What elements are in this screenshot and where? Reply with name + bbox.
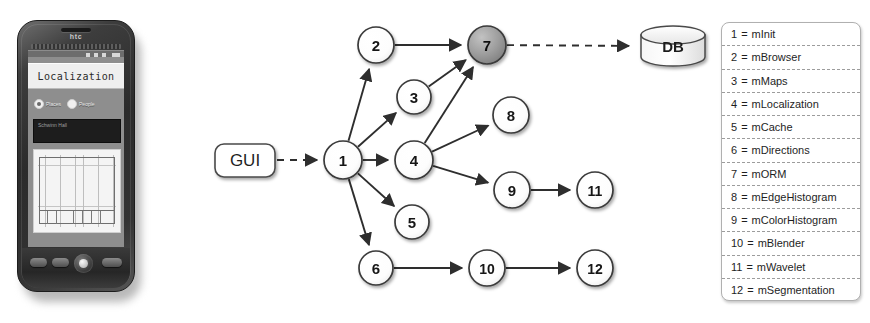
edge-1-to-6 [349, 179, 369, 245]
graph-node-label: 3 [410, 89, 418, 106]
legend-row-equals: = [737, 144, 751, 156]
graph-node-label: 12 [587, 261, 603, 277]
graph-node-5[interactable]: 5 [395, 205, 429, 239]
graph-node-3[interactable]: 3 [397, 80, 431, 114]
graph-node-11[interactable]: 11 [577, 172, 613, 208]
graph-node-1[interactable]: 1 [324, 141, 362, 179]
legend-row: 4=mLocalization [722, 93, 860, 116]
edge-1-to-3 [358, 113, 396, 147]
legend-row-name: mWavelet [757, 261, 806, 273]
node-layer: 123456789101112 [324, 26, 613, 286]
figure-canvas: htc Localization Places People [0, 0, 870, 323]
legend-row: 5=mCache [722, 116, 860, 139]
legend-row: 12=mSegmentation [722, 279, 860, 301]
graph-node-label: 8 [507, 107, 515, 124]
legend-row-name: mColorHistogram [752, 214, 838, 226]
graph-node-label: 2 [372, 37, 380, 54]
graph-node-10[interactable]: 10 [469, 250, 505, 286]
graph-node-label: 9 [508, 182, 516, 199]
legend-row-equals: = [737, 214, 751, 226]
legend-row-id: 11 [731, 261, 742, 273]
db-node[interactable]: DB [641, 26, 705, 66]
edge-3-to-7 [429, 60, 466, 87]
graph-node-8[interactable]: 8 [493, 97, 529, 133]
legend-row-name: mBrowser [752, 51, 802, 63]
legend-row-equals: = [737, 168, 751, 180]
legend-row-equals: = [743, 284, 757, 296]
legend-row: 3=mMaps [722, 70, 860, 93]
legend-row: 8=mEdgeHistogram [722, 186, 860, 209]
legend-row-name: mEdgeHistogram [752, 191, 837, 203]
edge-4-to-8 [432, 126, 488, 152]
legend-row-equals: = [743, 237, 757, 249]
graph-node-9[interactable]: 9 [494, 172, 530, 208]
legend-row-name: mSegmentation [758, 284, 835, 296]
edge-4-to-9 [433, 166, 488, 183]
graph-node-12[interactable]: 12 [577, 250, 613, 286]
graph-node-label: 10 [479, 261, 495, 277]
edge-7-to-DB [507, 45, 629, 46]
graph-node-label: 6 [372, 260, 380, 277]
legend-row: 2=mBrowser [722, 46, 860, 69]
legend-row-id: 12 [731, 284, 743, 296]
legend-row-list: 1=mInit2=mBrowser3=mMaps4=mLocalization5… [722, 23, 860, 301]
gui-node-label: GUI [230, 151, 260, 170]
legend-row-equals: = [737, 98, 751, 110]
legend-row: 9=mColorHistogram [722, 209, 860, 232]
graph-node-label: 5 [408, 214, 416, 231]
legend-row-name: mCache [752, 121, 793, 133]
edge-4-to-7 [425, 67, 473, 143]
graph-node-label: 1 [339, 152, 347, 169]
legend-row: 6=mDirections [722, 139, 860, 162]
graph-node-label: 11 [588, 183, 603, 199]
edge-1-to-5 [358, 173, 394, 206]
legend-row-name: mInit [752, 28, 776, 40]
legend-row: 7=mORM [722, 163, 860, 186]
legend-row-equals: = [737, 51, 751, 63]
legend-row-equals: = [737, 28, 751, 40]
legend-row-name: mORM [752, 168, 787, 180]
graph-node-label: 7 [483, 37, 491, 54]
legend-row: 10=mBlender [722, 232, 860, 255]
edge-1-to-2 [349, 69, 370, 141]
graph-node-7[interactable]: 7 [468, 26, 506, 64]
legend-row-equals: = [737, 121, 751, 133]
legend-row-equals: = [742, 261, 756, 273]
module-legend-panel: 1=mInit2=mBrowser3=mMaps4=mLocalization5… [721, 22, 861, 301]
legend-row: 11=mWavelet [722, 256, 860, 279]
legend-row: 1=mInit [722, 23, 860, 46]
db-node-label: DB [662, 38, 684, 55]
legend-row-name: mDirections [752, 144, 810, 156]
gui-node[interactable]: GUI [215, 144, 275, 177]
graph-node-label: 4 [410, 152, 419, 169]
legend-row-equals: = [737, 75, 751, 87]
graph-node-6[interactable]: 6 [359, 251, 393, 285]
legend-row-id: 10 [731, 237, 743, 249]
legend-row-name: mMaps [752, 75, 788, 87]
legend-row-name: mLocalization [752, 98, 819, 110]
graph-node-4[interactable]: 4 [395, 141, 433, 179]
graph-node-2[interactable]: 2 [358, 27, 394, 63]
legend-row-equals: = [737, 191, 751, 203]
legend-row-name: mBlender [758, 237, 805, 249]
